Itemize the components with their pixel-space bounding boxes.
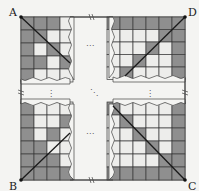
- point-d: [183, 15, 187, 19]
- grid-cell: [159, 167, 172, 180]
- grid-cell: [21, 115, 34, 128]
- grid-cell: [159, 128, 172, 141]
- grid-cell: [120, 55, 133, 68]
- grid-cell: [47, 167, 60, 180]
- grid-cell: [34, 141, 47, 154]
- grid-cell: [120, 30, 133, 43]
- grid-cell: [133, 167, 146, 180]
- grid-cell: [120, 128, 133, 141]
- grid-cell: [159, 141, 172, 154]
- grid-cell: [47, 128, 60, 141]
- grid-cell: [21, 128, 34, 141]
- grid-cell: [172, 42, 185, 55]
- grid-cell: [34, 17, 47, 30]
- grid-cell: [120, 154, 133, 167]
- grid-cell: [172, 55, 185, 68]
- grid-cell: [120, 17, 133, 30]
- grid-cell: [34, 167, 47, 180]
- point-b: [19, 178, 23, 182]
- grid-cell: [34, 56, 47, 69]
- grid-cell: [172, 115, 185, 128]
- grid-cell: [146, 55, 159, 68]
- label-b: B: [9, 180, 17, 191]
- grid-cell: [47, 56, 60, 69]
- ellipsis-center: ⋱: [90, 88, 98, 97]
- grid-cell: [146, 128, 159, 141]
- grid-cell: [47, 115, 60, 128]
- grid-cell: [159, 55, 172, 68]
- ellipsis-top: ⋯: [86, 41, 94, 50]
- grid-cell: [133, 115, 146, 128]
- grid-cell: [120, 167, 133, 180]
- grid-cell: [159, 115, 172, 128]
- grid-cell: [172, 128, 185, 141]
- grid-cell: [133, 42, 146, 55]
- point-a: [19, 15, 23, 19]
- grid-cell: [21, 43, 34, 56]
- label-d: D: [188, 6, 197, 19]
- grid-cell: [47, 30, 60, 43]
- ellipsis-left: ⋮: [47, 89, 55, 98]
- grid-cell: [120, 115, 133, 128]
- grid-cell: [47, 17, 60, 30]
- grid-cell: [21, 56, 34, 69]
- grid-cell: [172, 30, 185, 43]
- grid-cell: [146, 167, 159, 180]
- label-c: C: [188, 180, 196, 191]
- grid-cell: [34, 43, 47, 56]
- ellipsis-right: ⋮: [146, 89, 154, 98]
- point-c: [183, 178, 187, 182]
- grid-cell: [172, 141, 185, 154]
- ellipsis-bottom: ⋯: [86, 129, 94, 138]
- grid-cell: [120, 141, 133, 154]
- grid-cell: [133, 141, 146, 154]
- grid-cell: [47, 43, 60, 56]
- grid-cell: [34, 128, 47, 141]
- grid-cell: [133, 17, 146, 30]
- grid-top-right: [107, 17, 185, 80]
- grid-cell: [172, 154, 185, 167]
- grid-cell: [146, 115, 159, 128]
- grid-bottom-left: [21, 102, 73, 180]
- grid-cell: [146, 154, 159, 167]
- grid-cell: [21, 154, 34, 167]
- grid-cell: [47, 141, 60, 154]
- grid-cell: [34, 115, 47, 128]
- label-a: A: [8, 6, 18, 19]
- grid-cell: [146, 30, 159, 43]
- grid-cell: [133, 128, 146, 141]
- grid-cell: [47, 154, 60, 167]
- grid-top-left: [21, 17, 73, 82]
- grid-cell: [21, 30, 34, 43]
- square-grid-diagram: A D B C ⋯ ⋯ ⋮ ⋮ ⋱: [0, 0, 199, 191]
- grid-cell: [159, 42, 172, 55]
- grid-cell: [21, 141, 34, 154]
- grid-cell: [133, 30, 146, 43]
- grid-cell: [159, 17, 172, 30]
- grid-cell: [146, 17, 159, 30]
- grid-cell: [133, 154, 146, 167]
- grid-cell: [120, 42, 133, 55]
- grid-cell: [34, 30, 47, 43]
